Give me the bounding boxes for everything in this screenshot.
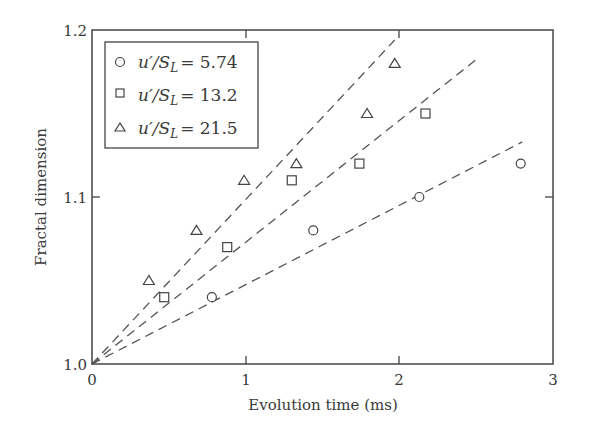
x-tick-label: 1 bbox=[241, 371, 251, 389]
circle-data-point bbox=[415, 193, 424, 202]
legend: u′/SL= 5.74 u′/SL= 13.2 u′/SL= 21.5 bbox=[105, 42, 258, 148]
square-data-point bbox=[287, 176, 296, 185]
triangle-data-point bbox=[239, 175, 250, 184]
y-axis-title: Fractal dimension bbox=[32, 128, 50, 266]
x-tick-label: 2 bbox=[394, 371, 404, 389]
triangle-data-point bbox=[389, 58, 400, 67]
square-data-point bbox=[421, 109, 430, 118]
triangle-data-point bbox=[291, 159, 302, 168]
x-tick-label: 3 bbox=[548, 371, 558, 389]
square-data-point bbox=[223, 243, 232, 252]
y-tick-label: 1.2 bbox=[63, 22, 87, 40]
legend-item: u′/SL= 5.74 bbox=[138, 52, 238, 75]
triangle-data-point bbox=[143, 276, 154, 285]
legend-item: u′/SL= 13.2 bbox=[138, 85, 238, 108]
circle-data-point bbox=[309, 226, 318, 235]
fit-line bbox=[92, 142, 522, 364]
x-tick-label: 0 bbox=[87, 371, 97, 389]
square-data-point bbox=[160, 293, 169, 302]
circle-data-point bbox=[207, 293, 216, 302]
triangle-data-point bbox=[362, 109, 373, 118]
x-axis-title: Evolution time (ms) bbox=[248, 396, 398, 414]
x-ticks bbox=[246, 30, 399, 364]
square-data-point bbox=[355, 159, 364, 168]
triangle-data-point bbox=[191, 225, 202, 234]
circle-data-point bbox=[516, 159, 525, 168]
y-tick-label: 1.0 bbox=[63, 356, 87, 374]
y-tick-label: 1.1 bbox=[63, 189, 87, 207]
legend-item: u′/SL= 21.5 bbox=[138, 118, 238, 141]
chart: 0 1 2 3 1.0 1.1 1.2 Evolution time (ms) … bbox=[0, 0, 597, 438]
